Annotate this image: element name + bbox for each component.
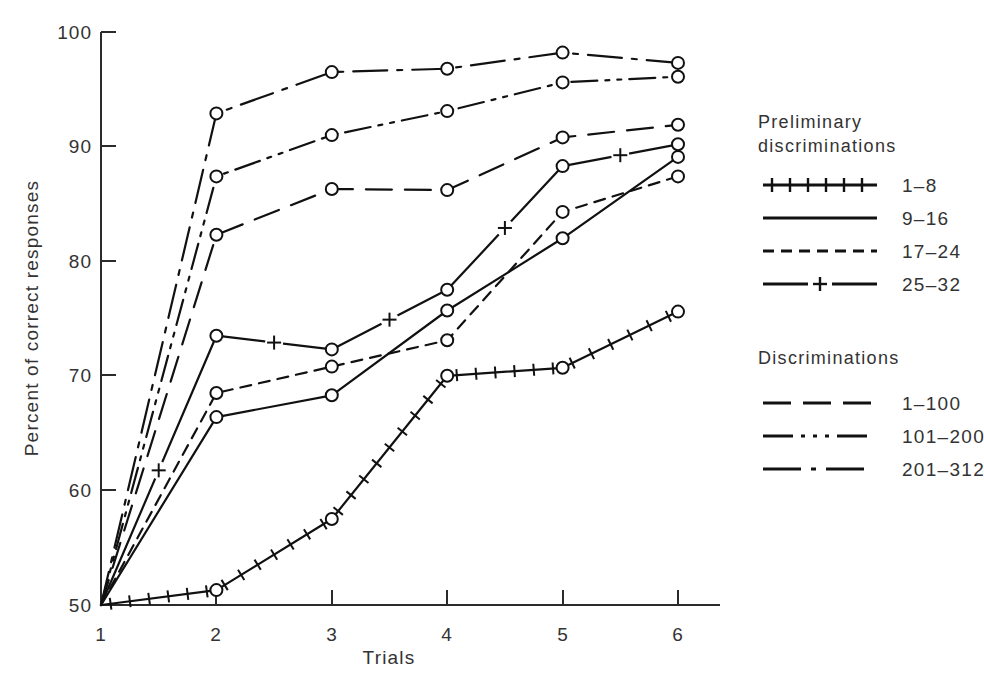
series-layer bbox=[101, 47, 684, 610]
data-point-marker bbox=[326, 513, 338, 525]
data-point-marker bbox=[672, 57, 684, 69]
legend-group-heading-discriminations: Discriminations bbox=[758, 348, 900, 368]
data-point-marker bbox=[210, 584, 222, 596]
data-point-marker bbox=[326, 129, 338, 141]
series-hatch-tick bbox=[533, 364, 534, 376]
x-tick-label-5: 5 bbox=[557, 624, 569, 645]
series-hatch-tick bbox=[238, 570, 244, 580]
series-hatch-tick bbox=[168, 590, 170, 602]
data-point-marker bbox=[210, 411, 222, 423]
legend-item-1-8[interactable]: 1–8 bbox=[763, 175, 938, 196]
legend-label-1-8: 1–8 bbox=[902, 175, 938, 196]
data-point-marker bbox=[557, 76, 569, 88]
data-point-marker bbox=[441, 63, 453, 75]
series-hatch-tick bbox=[514, 365, 515, 377]
axes-group: 100 90 80 70 60 50 1 2 3 4 5 6 Trials Pe… bbox=[21, 22, 720, 668]
series-hatch-tick bbox=[553, 363, 554, 375]
series-1-100 bbox=[101, 119, 684, 605]
series-25-32 bbox=[101, 138, 684, 605]
figure-container: 100 90 80 70 60 50 1 2 3 4 5 6 Trials Pe… bbox=[0, 0, 984, 697]
data-point-marker bbox=[326, 183, 338, 195]
y-tick-label-50: 50 bbox=[69, 595, 92, 616]
data-point-marker bbox=[441, 370, 453, 382]
line-chart: 100 90 80 70 60 50 1 2 3 4 5 6 Trials Pe… bbox=[0, 0, 984, 697]
legend-label-9-16: 9–16 bbox=[902, 208, 949, 229]
series-hatch-tick bbox=[110, 598, 112, 610]
legend-group-heading-preliminary-line2: discriminations bbox=[758, 136, 897, 156]
data-point-marker bbox=[672, 170, 684, 182]
data-point-marker bbox=[557, 206, 569, 218]
data-point-marker bbox=[326, 361, 338, 373]
legend-label-17-24: 17–24 bbox=[902, 241, 961, 262]
y-tick-label-70: 70 bbox=[69, 365, 92, 386]
series-hatch-tick bbox=[287, 539, 293, 549]
x-axis-title: Trials bbox=[363, 647, 416, 668]
data-point-marker bbox=[557, 47, 569, 59]
series-9-16 bbox=[101, 151, 684, 605]
x-tick-label-1: 1 bbox=[95, 624, 107, 645]
data-point-marker bbox=[210, 107, 222, 119]
series-hatch-tick bbox=[476, 368, 477, 380]
legend-label-1-100: 1–100 bbox=[902, 393, 961, 414]
legend-label-101-200: 101–200 bbox=[902, 426, 984, 447]
series-hatch-tick bbox=[206, 585, 208, 597]
data-point-marker bbox=[210, 330, 222, 342]
y-tick-label-60: 60 bbox=[69, 480, 92, 501]
x-tick-label-3: 3 bbox=[326, 624, 338, 645]
data-point-marker bbox=[210, 229, 222, 241]
series-hatch-tick bbox=[456, 369, 457, 381]
legend-label-201-312: 201–312 bbox=[902, 459, 984, 480]
data-point-marker bbox=[441, 334, 453, 346]
data-point-marker bbox=[441, 305, 453, 317]
series-hatch-tick bbox=[304, 529, 310, 539]
legend-swatch-25-32 bbox=[763, 277, 877, 291]
data-point-marker bbox=[441, 284, 453, 296]
data-point-marker bbox=[557, 160, 569, 172]
data-point-marker bbox=[557, 131, 569, 143]
x-tick-label-2: 2 bbox=[210, 624, 222, 645]
legend-item-9-16[interactable]: 9–16 bbox=[763, 208, 949, 229]
series-hatch-tick bbox=[148, 593, 150, 605]
data-point-marker bbox=[326, 389, 338, 401]
y-tick-label-100: 100 bbox=[57, 22, 92, 43]
series-hatch-tick bbox=[255, 560, 261, 570]
legend-item-201-312[interactable]: 201–312 bbox=[763, 459, 984, 480]
data-point-marker bbox=[672, 119, 684, 131]
plus-marker bbox=[613, 148, 627, 162]
data-point-marker bbox=[441, 105, 453, 117]
legend-label-25-32: 25–32 bbox=[902, 274, 961, 295]
y-tick-label-90: 90 bbox=[69, 136, 92, 157]
data-point-marker bbox=[672, 151, 684, 163]
plus-marker bbox=[152, 463, 166, 477]
series-line bbox=[101, 144, 678, 605]
y-tick-marks bbox=[101, 32, 116, 605]
plus-marker bbox=[267, 336, 281, 350]
series-line bbox=[101, 157, 678, 605]
legend-item-101-200[interactable]: 101–200 bbox=[763, 426, 984, 447]
data-point-marker bbox=[210, 387, 222, 399]
data-point-marker bbox=[557, 232, 569, 244]
y-tick-label-80: 80 bbox=[69, 251, 92, 272]
data-point-marker bbox=[441, 184, 453, 196]
series-hatch-tick bbox=[187, 588, 189, 600]
x-tick-label-6: 6 bbox=[672, 624, 684, 645]
series-line bbox=[101, 77, 678, 605]
data-point-marker bbox=[672, 138, 684, 150]
x-tick-label-4: 4 bbox=[441, 624, 453, 645]
data-point-marker bbox=[210, 170, 222, 182]
legend-group-heading-preliminary-line1: Preliminary bbox=[758, 112, 862, 132]
legend-item-25-32[interactable]: 25–32 bbox=[763, 274, 961, 295]
data-point-marker bbox=[326, 343, 338, 355]
series-hatch-tick bbox=[495, 367, 496, 379]
data-point-marker bbox=[557, 362, 569, 374]
legend-swatch-1-8 bbox=[763, 178, 877, 192]
legend-item-1-100[interactable]: 1–100 bbox=[763, 393, 961, 414]
legend-item-17-24[interactable]: 17–24 bbox=[763, 241, 961, 262]
data-point-marker bbox=[326, 66, 338, 78]
series-line bbox=[101, 125, 678, 605]
legend: Preliminary discriminations 1–8 9–16 bbox=[758, 112, 984, 480]
y-axis-title: Percent of correct responses bbox=[21, 180, 42, 457]
series-101-200 bbox=[101, 71, 684, 605]
data-point-marker bbox=[672, 71, 684, 83]
data-point-marker bbox=[672, 306, 684, 318]
